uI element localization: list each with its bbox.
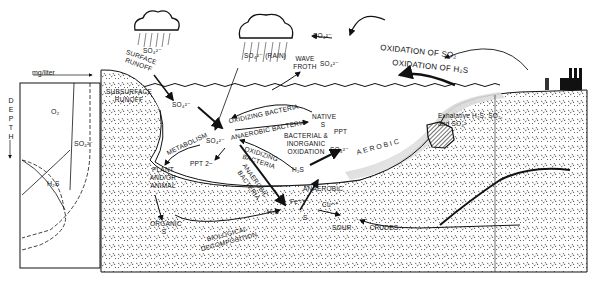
axis-label-depth: DEPTH [7, 96, 15, 141]
label-fe: Fe⁺⁺ [290, 198, 306, 206]
label-h2s-mid: H₂S [292, 166, 304, 174]
depth-profile-chart [10, 75, 100, 268]
label-cu: Cu⁺⁺ [322, 201, 339, 209]
label-ppt-right: PPT [334, 128, 347, 136]
cloud-left-icon [135, 11, 179, 47]
label-runoff-so4: SO₄²⁻ [172, 101, 191, 109]
curve-label-h2s: H₂S [47, 180, 59, 187]
label-s-low: S [303, 214, 308, 222]
label-so4-right: SO₄²⁻ [330, 146, 349, 154]
water-surface [110, 84, 500, 87]
label-plant-animal: PLANT AND/OR ANIMAL [145, 166, 181, 190]
label-wave-so4: SO₄²⁻ [320, 60, 339, 68]
label-wave-froth: WAVE FROTH [292, 55, 318, 71]
axis-label-mg-liter: mg/liter [32, 69, 55, 76]
label-rain-so4: SO₄²⁻ (RAIN) [244, 52, 286, 60]
curve-label-so4: SO₄²⁻ [74, 140, 93, 148]
label-organic-s: ORGANIC S [150, 220, 178, 236]
label-sour-crudes: SOUR CRUDES [332, 224, 398, 232]
label-exhalative: Exhalative H₂S, SO₂, and SO₄² [438, 112, 508, 128]
label-so4-top: SO₄²⁻ [313, 32, 332, 40]
label-ppt-2minus: PPT 2− [190, 160, 213, 168]
label-native-s: NATIVE S [312, 113, 334, 129]
factory-icon [545, 68, 582, 90]
label-h2s-low: H₂S [267, 208, 279, 216]
label-bacterial-inorganic-oxidation: BACTERIAL & INORGANIC OXIDATION [280, 132, 332, 156]
label-subsurface-runoff: SUBSURFACE RUNOFF [104, 88, 154, 104]
label-anaerobic-zone: ANAEROBIC [303, 185, 343, 193]
curve-label-o2: O₂ [51, 108, 59, 115]
